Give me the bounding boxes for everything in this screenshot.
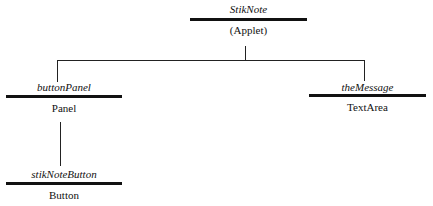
node-divider [190,18,307,21]
node-name: buttonPanel [6,81,122,93]
node-type: (Applet) [190,24,307,36]
root-stem-line [245,46,246,61]
horizontal-connector-line [57,60,365,61]
node-name: StikNote [190,3,307,15]
node-type: Button [6,189,122,201]
right-branch-line [364,60,365,81]
node-divider [309,94,426,97]
node-name: stikNoteButton [6,168,122,180]
node-divider [6,95,122,98]
panel-to-button-line [60,122,61,166]
node-type: Panel [6,102,122,114]
node-type: TextArea [309,101,426,113]
node-name: theMessage [309,81,426,93]
left-branch-line [57,60,58,82]
node-divider [6,182,122,185]
